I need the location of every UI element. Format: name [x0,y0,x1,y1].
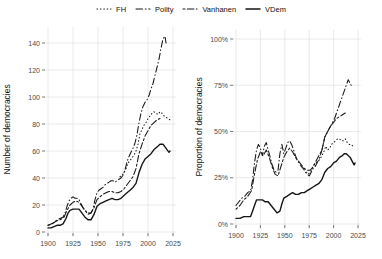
y-tick-label: 20 [32,202,40,209]
series-line-Vanhanen [236,113,345,209]
legend-key-dotted-line-icon [96,5,112,13]
series-line-FH [306,139,355,174]
legend-key-dotdash-line-icon [135,5,151,13]
y-tick-label: 140 [28,40,40,47]
y-tick-label: 0% [218,221,228,228]
legend-key-solid-line-icon [245,5,261,13]
axis-ticks-and-labels: 0204060801001201401900192519501975200020… [28,40,181,248]
legend-label: VDem [265,5,286,14]
y-axis-title: Number of democracies [2,84,12,174]
x-tick-label: 1975 [115,240,131,247]
chart-number-of-democracies: 0204060801001201401900192519501975200020… [0,16,190,259]
chart-proportion-of-democracies: 0%25%50%75%100%190019251950197520002025P… [190,16,382,259]
y-tick-label: 100% [210,36,228,43]
x-tick-label: 2000 [326,232,342,239]
x-tick-label: 1925 [253,232,269,239]
series-line-Vanhanen [48,119,160,226]
y-axis-title: Proportion of democracies [194,77,204,176]
gridlines [233,30,361,229]
y-tick-label: 50% [214,128,228,135]
y-tick-label: 25% [214,174,228,181]
legend-item-Vanhanen: Vanhanen [182,5,236,14]
y-tick-label: 80 [32,121,40,128]
legend-label: FH [116,5,126,14]
legend: FHPolityVanhanenVDem [0,2,382,16]
democracy-measures-figure: FHPolityVanhanenVDem 0204060801001201401… [0,0,382,259]
series-line-VDem [236,154,355,219]
y-tick-label: 120 [28,67,40,74]
gridlines [45,27,176,237]
legend-item-VDem: VDem [245,5,286,14]
y-tick-label: 0 [36,229,40,236]
x-tick-label: 1925 [65,240,81,247]
x-tick-label: 1900 [40,240,56,247]
legend-key-twodash-line-icon [182,5,198,13]
y-tick-label: 100 [28,94,40,101]
x-tick-label: 1950 [90,240,106,247]
y-tick-label: 40 [32,175,40,182]
x-tick-label: 1950 [277,232,293,239]
y-tick-label: 60 [32,148,40,155]
x-tick-label: 1900 [228,232,244,239]
series-line-VDem [48,144,170,228]
axis-ticks-and-labels: 0%25%50%75%100%190019251950197520002025 [210,36,366,240]
x-tick-label: 2025 [350,232,366,239]
x-tick-label: 1975 [301,232,317,239]
legend-item-FH: FH [96,5,126,14]
y-tick-label: 75% [214,82,228,89]
x-tick-label: 2000 [140,240,156,247]
x-tick-label: 2025 [165,240,181,247]
legend-label: Polity [155,5,173,14]
legend-label: Vanhanen [202,5,236,14]
legend-item-Polity: Polity [135,5,173,14]
